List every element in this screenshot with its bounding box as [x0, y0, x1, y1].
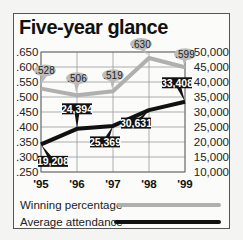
data-label-average-attendance: 19,208 — [37, 155, 69, 167]
left-tick-label: .650 — [16, 46, 38, 58]
left-tick-label: .550 — [16, 76, 38, 88]
left-tick-label: .300 — [16, 151, 38, 163]
x-tick-label: '98 — [141, 178, 157, 190]
x-tick-label: '95 — [33, 178, 49, 190]
x-tick-label: '96 — [69, 178, 85, 190]
data-label-winning-percentage: .506 — [67, 73, 87, 84]
right-tick-label: 45,000 — [194, 61, 229, 73]
x-tick-label: '97 — [105, 178, 121, 190]
left-tick-label: .450 — [16, 106, 38, 118]
left-tick-label: .350 — [16, 136, 38, 148]
data-label-average-attendance: 25,369 — [89, 136, 121, 148]
left-tick-label: .400 — [16, 121, 38, 133]
data-label-average-attendance: 30,631 — [120, 117, 152, 129]
x-tick-label: '99 — [177, 178, 193, 190]
data-label-average-attendance: 33,408 — [161, 77, 193, 89]
data-label-winning-percentage: .519 — [103, 70, 123, 81]
right-tick-label: 35,000 — [194, 91, 229, 103]
data-label-average-attendance: 24,394 — [61, 103, 93, 115]
left-tick-label: .250 — [16, 166, 38, 178]
chart-svg: .65050,000.60045,000.55040,000.50035,000… — [0, 0, 243, 240]
legend-label: Winning percentage — [20, 199, 122, 211]
left-tick-label: .500 — [16, 91, 38, 103]
right-tick-label: 15,000 — [194, 151, 229, 163]
data-label-winning-percentage: .630 — [131, 39, 151, 50]
data-label-winning-percentage: .599 — [175, 49, 195, 60]
right-tick-label: 25,000 — [194, 121, 229, 133]
right-tick-label: 20,000 — [194, 136, 229, 148]
right-tick-label: 50,000 — [194, 46, 229, 58]
right-tick-label: 10,000 — [194, 166, 229, 178]
data-label-winning-percentage: .528 — [35, 65, 55, 76]
legend-label: Average attendance — [20, 216, 123, 228]
right-tick-label: 30,000 — [194, 106, 229, 118]
right-tick-label: 40,000 — [194, 76, 229, 88]
